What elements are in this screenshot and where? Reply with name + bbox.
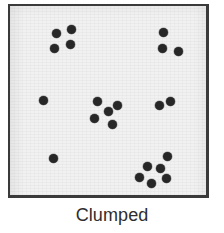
scatter-point [90,114,99,123]
scatter-point [113,101,122,110]
scatter-point [162,174,171,183]
scatter-point [49,154,58,163]
scatter-point [66,40,75,49]
scatter-points-layer [10,6,206,195]
scatter-point [50,44,59,53]
scatter-point [93,97,102,106]
scatter-point [67,25,76,34]
figure-caption: Clumped [0,203,224,227]
scatter-point [155,101,164,110]
scatter-point [159,28,168,37]
scatter-point [163,152,172,161]
scatter-point [166,97,175,106]
scatter-point [104,107,113,116]
scatter-point [52,29,61,38]
scatter-point [158,44,167,53]
scatter-point [39,96,48,105]
plot-panel [8,4,209,198]
scatter-point [135,173,144,182]
scatter-point [147,179,156,188]
scatter-point [143,162,152,171]
scatter-point [156,164,165,173]
scatter-point [174,47,183,56]
dispersion-pattern-figure: Clumped [0,0,224,233]
scatter-point [108,120,117,129]
